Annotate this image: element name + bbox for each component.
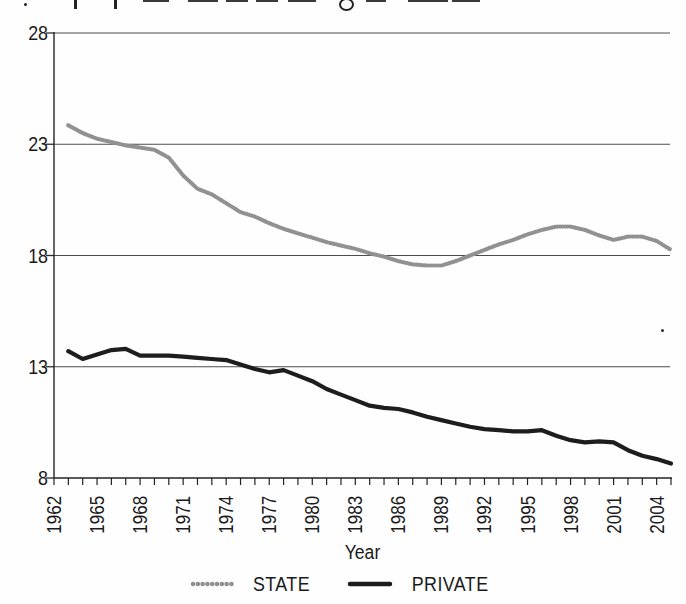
x-tick-label: 1968 [131,496,149,533]
x-tick-label: 1965 [88,496,106,533]
x-tick-label: 1980 [303,496,321,533]
y-tick-label: 18 [16,245,48,267]
legend-item-state: STATE [190,572,315,596]
x-axis-title: Year [91,541,634,564]
figure-container: 282318138 196219651968197119741977198019… [0,0,686,604]
y-tick-label: 28 [16,22,48,44]
state-line-swatch [190,580,236,588]
x-tick-label: 2004 [648,496,666,533]
x-tick-label: 1995 [519,496,537,533]
x-tick-label: 1989 [432,496,450,533]
x-tick-label: 2001 [605,496,623,533]
y-tick-label: 13 [16,356,48,378]
legend-label-private: PRIVATE [412,572,489,596]
x-tick-label: 1977 [260,496,278,533]
x-tick-label: 1962 [45,496,63,533]
x-tick-label: 1986 [389,496,407,533]
y-tick-label: 23 [16,133,48,155]
legend: STATE PRIVATE [0,571,686,597]
stray-ink-speck [661,329,664,332]
y-tick-label: 8 [16,467,48,489]
x-tick-label: 1992 [475,496,493,533]
legend-label-state: STATE [253,572,310,596]
x-tick-label: 1971 [174,496,192,533]
legend-item-private: PRIVATE [347,572,495,596]
private-line-swatch [347,580,393,588]
x-tick-label: 1983 [346,496,364,533]
x-tick-label: 1974 [217,496,235,533]
x-tick-label: 1998 [562,496,580,533]
